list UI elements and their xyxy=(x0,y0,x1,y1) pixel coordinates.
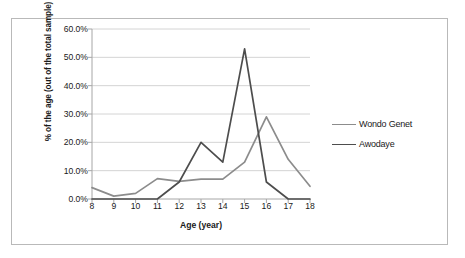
y-tick-label-20: 20.0% xyxy=(44,137,88,147)
chart-container: % of the age (out of the total sample) 0… xyxy=(11,18,448,245)
x-axis-tick-labels: 89101112131415161718 xyxy=(92,201,310,215)
x-tick-label-18: 18 xyxy=(305,201,315,211)
legend-item-label: Wondo Genet xyxy=(359,119,412,129)
series-line-wondo-genet xyxy=(92,117,310,196)
x-tick-label-14: 14 xyxy=(218,201,228,211)
legend-line-swatch-icon xyxy=(332,144,356,145)
x-tick-label-13: 13 xyxy=(196,201,206,211)
y-tick-label-10: 10.0% xyxy=(44,166,88,176)
x-tick-label-12: 12 xyxy=(174,201,184,211)
legend-item-awodaye[interactable]: Awodaye xyxy=(332,134,450,154)
x-tick-label-8: 8 xyxy=(90,201,95,211)
plot-area xyxy=(92,29,310,199)
series-line-awodaye xyxy=(92,49,310,199)
legend-item-wondo-genet[interactable]: Wondo Genet xyxy=(332,114,450,134)
x-axis-title: Age (year) xyxy=(92,220,310,230)
y-tick-label-50: 50.0% xyxy=(44,52,88,62)
y-axis-tick-labels: 0.0%10.0%20.0%30.0%40.0%50.0%60.0% xyxy=(42,19,88,244)
x-tick-label-15: 15 xyxy=(240,201,250,211)
x-tick-label-9: 9 xyxy=(111,201,116,211)
x-tick-label-10: 10 xyxy=(131,201,141,211)
y-tick-label-0: 0.0% xyxy=(44,194,88,204)
chart-inner: % of the age (out of the total sample) 0… xyxy=(12,19,447,244)
y-tick-label-40: 40.0% xyxy=(44,81,88,91)
chart-legend: Wondo GenetAwodaye xyxy=(332,114,450,154)
y-tick-label-30: 30.0% xyxy=(44,109,88,119)
x-tick-label-17: 17 xyxy=(283,201,293,211)
x-tick-label-11: 11 xyxy=(153,201,162,211)
plot-svg xyxy=(92,29,310,199)
legend-line-swatch-icon xyxy=(332,124,356,125)
y-tick-label-60: 60.0% xyxy=(44,24,88,34)
legend-item-label: Awodaye xyxy=(359,139,394,149)
x-tick-label-16: 16 xyxy=(262,201,272,211)
